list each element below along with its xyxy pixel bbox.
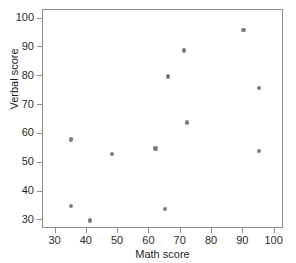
data-point xyxy=(241,28,246,33)
x-tick-label: 70 xyxy=(165,234,195,247)
x-axis-title: Math score xyxy=(42,248,283,260)
x-tick-label: 80 xyxy=(196,234,226,247)
y-tick-label: 40 xyxy=(0,185,34,196)
x-tick-mark xyxy=(274,228,275,233)
y-tick-label: 30 xyxy=(0,214,34,225)
x-tick-label: 50 xyxy=(102,234,132,247)
x-tick-label: 60 xyxy=(133,234,163,247)
data-point xyxy=(163,207,168,212)
x-tick-mark xyxy=(55,228,56,233)
data-point xyxy=(257,86,262,91)
x-tick-mark xyxy=(86,228,87,233)
data-points-layer xyxy=(43,10,282,227)
plot-area xyxy=(42,9,283,228)
y-tick-label: 50 xyxy=(0,156,34,167)
data-point xyxy=(185,120,190,125)
x-tick-label: 100 xyxy=(259,234,289,247)
data-point xyxy=(182,48,187,53)
y-axis-title: Verbal score xyxy=(8,29,20,129)
data-point xyxy=(69,204,74,209)
scatter-plot-figure: 30405060708090100 30405060708090100 Math… xyxy=(0,0,296,263)
x-tick-mark xyxy=(148,228,149,233)
x-tick-mark xyxy=(211,228,212,233)
y-tick-label: 60 xyxy=(0,127,34,138)
y-tick-label: 100 xyxy=(0,12,34,23)
data-point xyxy=(69,137,74,142)
x-tick-label: 30 xyxy=(40,234,70,247)
x-tick-label: 40 xyxy=(71,234,101,247)
x-tick-mark xyxy=(180,228,181,233)
data-point xyxy=(166,74,171,79)
x-tick-mark xyxy=(242,228,243,233)
data-point xyxy=(257,149,262,154)
data-point xyxy=(110,152,115,157)
data-point xyxy=(153,146,158,151)
x-tick-label: 90 xyxy=(227,234,257,247)
x-tick-mark xyxy=(117,228,118,233)
data-point xyxy=(88,218,93,223)
